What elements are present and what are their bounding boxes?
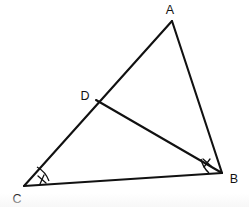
label-b: B	[230, 172, 238, 186]
label-a: A	[166, 3, 175, 17]
label-c: C	[12, 192, 21, 206]
diagram-canvas: A B C D	[0, 0, 249, 207]
segment-cb	[24, 173, 222, 186]
segment-ab	[172, 21, 222, 173]
label-d: D	[80, 89, 89, 103]
segment-db	[96, 100, 222, 173]
angle-tick-c-cross	[40, 175, 44, 184]
segment-ac	[24, 21, 172, 186]
geometry-figure: A B C D	[0, 0, 249, 207]
